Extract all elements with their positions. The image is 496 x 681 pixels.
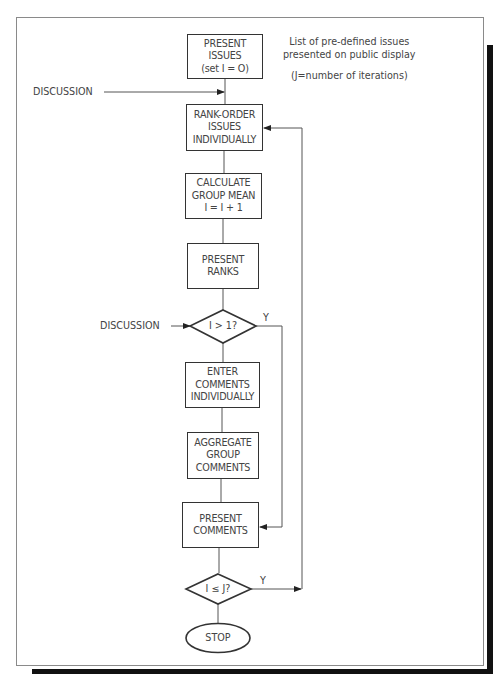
box-line: RANK-ORDER <box>193 109 256 122</box>
decision-2-text: I ≤ J? <box>188 583 248 594</box>
discussion-label-mid: DISCUSSION <box>100 320 160 331</box>
box-line: COMMENTS <box>191 379 254 392</box>
rank-order-box: RANK-ORDER ISSUES INDIVIDUALLY <box>186 104 263 151</box>
box-line: I = I + 1 <box>192 202 256 215</box>
box-line: GROUP <box>194 449 251 462</box>
calculate-mean-box: CALCULATE GROUP MEAN I = I + 1 <box>185 173 262 219</box>
yes-label-2: Y <box>260 575 266 586</box>
decision-1-text: I > 1? <box>193 320 253 331</box>
iterations-note: (J=number of iterations) <box>291 70 408 83</box>
enter-comments-box: ENTER COMMENTS INDIVIDUALLY <box>185 362 260 408</box>
box-line: (set I = O) <box>201 63 249 76</box>
connector-lines <box>0 0 496 681</box>
present-ranks-box: PRESENT RANKS <box>187 243 259 289</box>
box-line: CALCULATE <box>192 177 256 190</box>
note-line: presented on public display <box>283 49 416 62</box>
box-line: ISSUES <box>201 50 249 63</box>
stop-text: STOP <box>188 632 248 643</box>
yes-label-1: Y <box>263 312 269 323</box>
box-line: INDIVIDUALLY <box>191 391 254 404</box>
box-line: RANKS <box>202 266 244 279</box>
box-line: COMMENTS <box>194 462 251 475</box>
box-line: ISSUES <box>193 121 256 134</box>
note-line: List of pre-defined issues <box>283 36 416 49</box>
present-comments-box: PRESENT COMMENTS <box>182 502 259 548</box>
box-line: ENTER <box>191 366 254 379</box>
box-line: INDIVIDUALLY <box>193 134 256 147</box>
present-issues-box: PRESENT ISSUES (set I = O) <box>187 34 263 79</box>
box-line: PRESENT <box>201 38 249 51</box>
box-line: AGGREGATE <box>194 437 251 450</box>
box-line: COMMENTS <box>193 525 247 538</box>
box-line: PRESENT <box>193 513 247 526</box>
box-line: GROUP MEAN <box>192 190 256 203</box>
issues-note: List of pre-defined issues presented on … <box>283 36 416 61</box>
aggregate-comments-box: AGGREGATE GROUP COMMENTS <box>187 432 259 479</box>
box-line: PRESENT <box>202 254 244 267</box>
discussion-label-top: DISCUSSION <box>33 86 93 97</box>
